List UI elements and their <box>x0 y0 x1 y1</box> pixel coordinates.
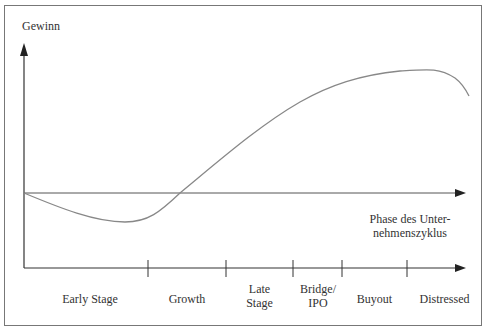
phase-bridge-ipo: Bridge/ IPO <box>286 282 350 310</box>
phase-label: Late <box>226 282 293 296</box>
phase-late-stage: Late Stage <box>226 282 293 310</box>
phase-label: Buyout <box>342 292 407 306</box>
phase-growth: Growth <box>148 292 226 306</box>
phase-axis-arrow-icon <box>455 264 466 272</box>
phase-label: Growth <box>148 292 226 306</box>
x-axis-label: Phase des Unter- nehmenszyklus <box>340 212 480 240</box>
phase-buyout: Buyout <box>342 292 407 306</box>
x-axis-label-line2: nehmenszyklus <box>340 226 480 240</box>
y-axis-arrow-icon <box>20 43 28 56</box>
profit-curve <box>24 70 469 222</box>
phase-label-line2: Stage <box>226 296 293 310</box>
phase-label: Bridge/ <box>286 282 350 296</box>
y-axis-label: Gewinn <box>22 19 60 33</box>
phase-label: Distressed <box>407 292 482 306</box>
phase-label: Early Stage <box>40 292 140 306</box>
phase-early-stage: Early Stage <box>40 292 140 306</box>
zero-axis-arrow-icon <box>455 189 466 197</box>
phase-distressed: Distressed <box>407 292 482 306</box>
phase-label-line2: IPO <box>286 296 350 310</box>
x-axis-label-line1: Phase des Unter- <box>340 212 480 226</box>
